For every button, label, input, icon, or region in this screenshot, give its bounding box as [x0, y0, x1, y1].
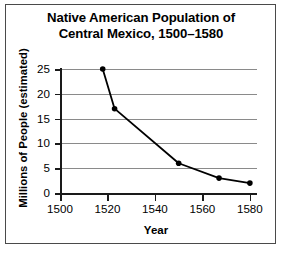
data-point-marker	[112, 106, 118, 112]
data-point-marker	[247, 180, 253, 186]
x-tick-label: 1540	[135, 202, 175, 215]
x-tick	[107, 195, 109, 201]
series-line	[103, 69, 250, 183]
chart-figure: Native American Population of Central Me…	[0, 0, 283, 256]
x-axis-label: Year	[56, 224, 256, 236]
x-tick-label: 1580	[230, 202, 270, 215]
x-axis-line	[60, 193, 257, 195]
x-tick	[155, 195, 157, 201]
y-tick-label: 5	[26, 161, 50, 174]
chart-title-line-1: Native American Population of	[12, 10, 270, 26]
chart-title-line-2: Central Mexico, 1500–1580	[12, 26, 270, 42]
plot-area	[60, 69, 257, 193]
data-point-marker	[216, 175, 222, 181]
x-tick	[202, 195, 204, 201]
y-tick-label: 25	[26, 62, 50, 75]
chart-title: Native American Population of Central Me…	[12, 10, 270, 42]
data-point-marker	[176, 160, 182, 166]
y-tick-label: 20	[26, 87, 50, 100]
y-tick-label: 15	[26, 112, 50, 125]
x-tick-label: 1520	[87, 202, 127, 215]
y-tick-label: 10	[26, 136, 50, 149]
data-point-marker	[100, 66, 106, 72]
x-tick-label: 1560	[182, 202, 222, 215]
population-series	[60, 69, 257, 193]
x-tick-label: 1500	[40, 202, 80, 215]
x-tick	[60, 195, 62, 201]
y-tick-label: 0	[26, 186, 50, 199]
x-tick	[250, 195, 252, 201]
